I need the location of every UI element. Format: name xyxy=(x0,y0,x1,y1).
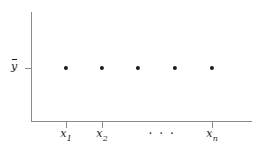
data-point xyxy=(64,66,68,70)
data-point xyxy=(100,66,104,70)
data-point xyxy=(210,66,214,70)
xn-base: x xyxy=(206,127,212,140)
x-axis-ellipsis: · · · xyxy=(148,128,175,141)
xn-subscript: n xyxy=(213,134,218,143)
x-axis-label-x2: x2 xyxy=(96,127,107,144)
x-axis-label-xn: xn xyxy=(206,127,217,144)
data-point xyxy=(173,66,177,70)
x1-subscript: 1 xyxy=(67,134,72,143)
data-point xyxy=(136,66,140,70)
y-axis-label: y xyxy=(11,60,17,74)
x2-subscript: 2 xyxy=(103,134,108,143)
x-axis-line xyxy=(31,121,252,122)
scatter-plot-figure: y x1 x2 · · · xn xyxy=(0,0,263,149)
y-axis-line xyxy=(31,12,32,122)
x2-base: x xyxy=(96,127,102,140)
x-axis-label-x1: x1 xyxy=(60,127,71,144)
y-bar-symbol: y xyxy=(11,60,17,74)
x1-base: x xyxy=(60,127,66,140)
y-axis-tick-ybar xyxy=(25,68,31,69)
